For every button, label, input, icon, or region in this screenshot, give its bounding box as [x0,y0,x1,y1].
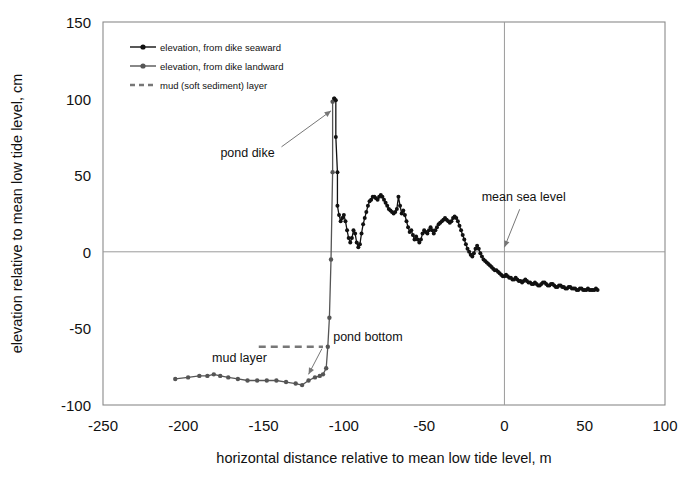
series-marker-1 [596,288,600,292]
y-axis-tick-label: 150 [66,14,91,31]
series-marker-1 [335,204,339,208]
series-marker-0 [306,378,310,382]
series-marker-1 [456,219,460,223]
x-axis-tick-label: 50 [576,417,593,434]
y-axis-title: elevation relative to mean low tide leve… [9,74,25,354]
series-marker-0 [186,375,190,379]
series-marker-1 [348,241,352,245]
annotation-label-mean-sea-level: mean sea level [482,190,566,204]
series-marker-0 [300,383,304,387]
series-marker-0 [329,257,333,261]
series-marker-1 [406,225,410,229]
series-marker-1 [358,242,362,246]
series-marker-1 [335,170,339,174]
y-axis-tick-label: -50 [69,320,91,337]
series-marker-0 [321,372,325,376]
series-marker-0 [226,375,230,379]
series-marker-0 [274,378,278,382]
y-axis-tick-label: 50 [74,167,91,184]
series-marker-0 [255,378,259,382]
x-axis-tick-label: 0 [500,417,508,434]
series-marker-0 [324,366,328,370]
legend-label-2: mud (soft sediment) layer [160,80,267,91]
series-marker-1 [364,210,368,214]
series-marker-0 [173,377,177,381]
series-marker-0 [205,374,209,378]
series-marker-0 [245,378,249,382]
series-marker-1 [366,204,370,208]
series-marker-0 [197,374,201,378]
series-marker-1 [472,251,476,255]
series-marker-1 [398,204,402,208]
chart-figure: 150100500-50-100-250-200-150-100-5005010… [0,0,697,484]
series-marker-1 [401,208,405,212]
series-marker-0 [236,377,240,381]
x-axis-tick-label: -250 [88,417,118,434]
y-axis-tick-label: 100 [66,91,91,108]
series-marker-1 [459,228,463,232]
x-axis-tick-label: -100 [329,417,359,434]
annotation-label-pond-bottom: pond bottom [333,330,403,344]
series-marker-1 [361,222,365,226]
series-marker-0 [313,375,317,379]
series-marker-0 [330,170,334,174]
series-marker-0 [293,381,297,385]
series-marker-0 [265,378,269,382]
series-marker-1 [419,238,423,242]
series-marker-1 [342,213,346,217]
x-axis-tick-label: 100 [652,417,677,434]
series-marker-1 [337,213,341,217]
annotation-label-mud-layer: mud layer [212,351,267,365]
series-marker-1 [334,98,338,102]
series-marker-1 [350,236,354,240]
annotation-label-pond-dike: pond dike [220,146,274,160]
series-marker-1 [363,216,367,220]
series-marker-1 [343,219,347,223]
elevation-profile-chart: 150100500-50-100-250-200-150-100-5005010… [0,0,697,484]
series-marker-0 [326,345,330,349]
series-marker-1 [409,228,413,232]
series-marker-0 [284,380,288,384]
series-marker-1 [462,238,466,242]
series-marker-1 [477,247,481,251]
x-axis-tick-label: -200 [168,417,198,434]
series-marker-0 [218,374,222,378]
x-axis-tick-label: -50 [413,417,435,434]
x-axis-title: horizontal distance relative to mean low… [216,450,551,466]
series-marker-1 [403,213,407,217]
series-marker-0 [212,372,216,376]
series-marker-1 [395,207,399,211]
y-axis-tick-label: 0 [83,244,91,261]
series-marker-1 [461,233,465,237]
series-marker-1 [457,224,461,228]
series-marker-1 [345,228,349,232]
legend-label-1: elevation, from dike landward [160,61,284,72]
series-marker-1 [396,195,400,199]
series-marker-1 [404,219,408,223]
x-axis-tick-label: -150 [249,417,279,434]
series-marker-1 [334,135,338,139]
legend-label-0: elevation, from dike seaward [160,42,281,53]
series-marker-1 [353,231,357,235]
legend-marker-1 [140,63,145,68]
series-marker-1 [360,231,364,235]
series-marker-1 [464,242,468,246]
series-marker-0 [327,315,331,319]
legend-marker-0 [140,44,145,49]
y-axis-tick-label: -100 [61,397,91,414]
